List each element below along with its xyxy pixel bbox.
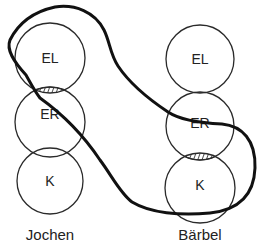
jochen-ego-states: EL ER K	[15, 23, 85, 214]
jochen-k-label: K	[45, 173, 55, 189]
baerbel-el-label: EL	[191, 51, 208, 67]
baerbel-k-label: K	[195, 177, 205, 193]
jochen-el-label: EL	[41, 50, 58, 66]
ego-state-diagram: EL ER K EL ER K Jochen Bärbel	[0, 0, 263, 245]
jochen-name: Jochen	[26, 226, 74, 243]
baerbel-name: Bärbel	[178, 226, 221, 243]
jochen-er-circle	[15, 87, 85, 157]
jochen-er-label: ER	[40, 106, 59, 122]
